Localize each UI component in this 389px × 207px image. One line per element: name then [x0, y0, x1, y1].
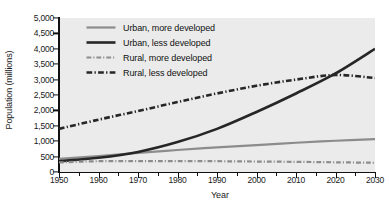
x-axis-tick [336, 173, 337, 178]
y-axis-tick [53, 110, 58, 111]
legend-label: Urban, less developed [123, 38, 210, 48]
y-axis-tick [53, 94, 58, 95]
legend-item[interactable]: Urban, more developed [86, 20, 261, 35]
x-axis-tick [296, 173, 297, 178]
y-axis-tick [53, 79, 58, 80]
x-axis-minor-tick [158, 173, 159, 176]
x-axis-tick [178, 173, 179, 178]
x-axis-tick [375, 173, 376, 178]
x-axis-title: Year [60, 190, 380, 200]
y-axis-tick [53, 64, 58, 65]
y-axis-tick [53, 17, 58, 18]
legend-label: Rural, more developed [123, 53, 212, 63]
x-axis-minor-tick [79, 173, 80, 176]
x-axis-tick [257, 173, 258, 178]
x-axis-tick [138, 173, 139, 178]
y-axis-tick [53, 33, 58, 34]
legend-swatch-icon [86, 52, 116, 63]
y-axis-tick [53, 48, 58, 49]
x-axis-minor-tick [355, 173, 356, 176]
y-axis-tick [53, 125, 58, 126]
legend-label: Urban, more developed [123, 23, 215, 33]
legend-item[interactable]: Urban, less developed [86, 35, 261, 50]
series-line-3 [59, 75, 375, 129]
x-axis-minor-tick [316, 173, 317, 176]
y-axis-tick [53, 156, 58, 157]
legend-swatch-icon [86, 22, 116, 33]
legend-swatch-icon [86, 67, 116, 78]
x-axis-minor-tick [118, 173, 119, 176]
x-axis-tick [99, 173, 100, 178]
series-line-2 [59, 161, 375, 163]
x-axis-title-text: Year [211, 190, 229, 200]
population-line-chart: Population (millions) 05001,0001,5002,00… [0, 0, 389, 207]
legend-item[interactable]: Rural, less developed [86, 65, 261, 80]
x-tick-label: 2030 [355, 176, 389, 185]
legend: Urban, more developedUrban, less develop… [86, 20, 261, 80]
x-axis-minor-tick [197, 173, 198, 176]
y-axis-tick [53, 141, 58, 142]
legend-item[interactable]: Rural, more developed [86, 50, 261, 65]
y-axis-tick [53, 171, 58, 172]
x-axis-tick [59, 173, 60, 178]
x-axis-tick [217, 173, 218, 178]
legend-swatch-icon [86, 37, 116, 48]
legend-label: Rural, less developed [123, 68, 207, 78]
x-axis-minor-tick [237, 173, 238, 176]
x-axis-minor-tick [276, 173, 277, 176]
